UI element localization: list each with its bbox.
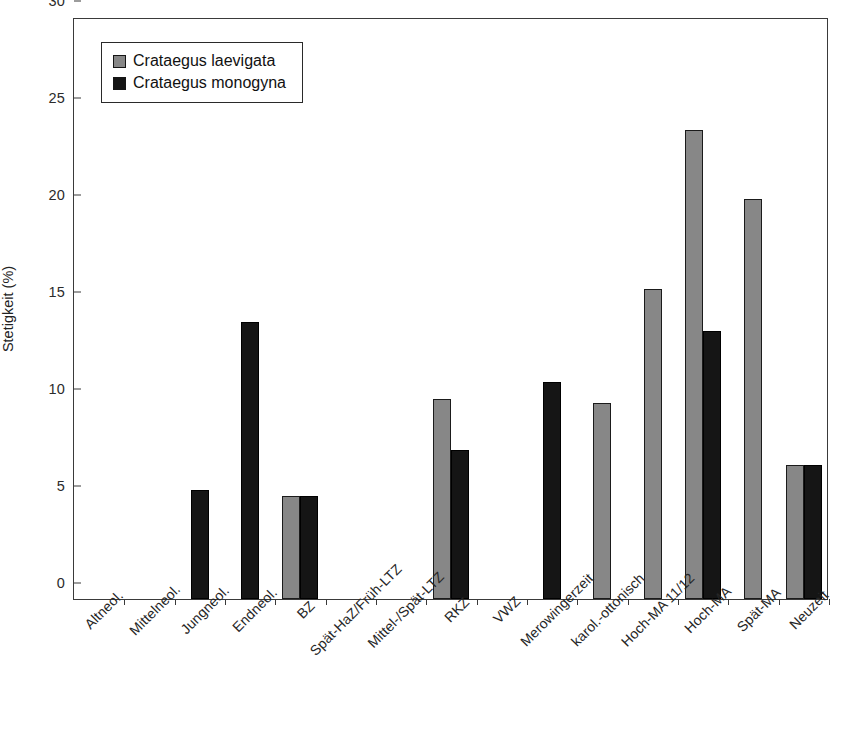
bar-group	[376, 19, 426, 599]
bar-laevigata	[593, 403, 611, 599]
bar-group	[426, 19, 476, 599]
x-axis-tick-label: BZ	[293, 598, 317, 622]
bar-group	[74, 19, 124, 599]
bar-monogyna	[241, 322, 259, 599]
y-axis-tick-label: 0	[57, 575, 74, 591]
bar-monogyna	[451, 450, 469, 599]
bar-monogyna	[543, 382, 561, 599]
y-axis-title: Stetigkeit (%)	[0, 266, 16, 352]
bar-monogyna	[703, 331, 721, 599]
bar-group	[527, 19, 577, 599]
bar-monogyna	[804, 465, 822, 599]
y-axis-tick-label: 5	[57, 478, 74, 494]
bar-group	[175, 19, 225, 599]
bar-group	[728, 19, 778, 599]
plot-area: 051015202530	[73, 18, 828, 600]
y-axis-tick-label: 25	[48, 90, 74, 106]
bar-laevigata	[644, 289, 662, 599]
bar-chart-stetigkeit: Stetigkeit (%) 051015202530 Altneol.Mitt…	[0, 0, 863, 751]
y-axis-tick-label: 30	[48, 0, 74, 9]
legend-item: Crataegus monogyna	[113, 72, 286, 94]
y-axis-tick-label: 15	[48, 284, 74, 300]
bar-laevigata	[786, 465, 804, 599]
bar-group	[326, 19, 376, 599]
bar-group	[678, 19, 728, 599]
bar-laevigata	[282, 496, 300, 599]
y-axis-tick-label: 20	[48, 187, 74, 203]
x-axis-tick-mark	[527, 599, 528, 605]
bars-layer	[74, 19, 827, 599]
y-axis-tick-mark	[74, 1, 81, 2]
legend-item-label: Crataegus laevigata	[133, 53, 275, 69]
bar-group	[477, 19, 527, 599]
chart-legend: Crataegus laevigataCrataegus monogyna	[101, 42, 303, 103]
bar-group	[779, 19, 829, 599]
legend-swatch-laevigata	[113, 55, 126, 68]
legend-item-label: Crataegus monogyna	[133, 75, 286, 91]
bar-monogyna	[300, 496, 318, 599]
bar-group	[628, 19, 678, 599]
bar-group	[577, 19, 627, 599]
bar-group	[275, 19, 325, 599]
bar-monogyna	[191, 490, 209, 599]
legend-swatch-monogyna	[113, 77, 126, 90]
bar-laevigata	[685, 130, 703, 599]
y-axis-tick-label: 10	[48, 381, 74, 397]
bar-group	[124, 19, 174, 599]
x-axis-tick-mark	[477, 599, 478, 605]
legend-item: Crataegus laevigata	[113, 50, 286, 72]
bar-group	[225, 19, 275, 599]
bar-laevigata	[744, 199, 762, 599]
x-axis-tick-mark	[326, 599, 327, 605]
